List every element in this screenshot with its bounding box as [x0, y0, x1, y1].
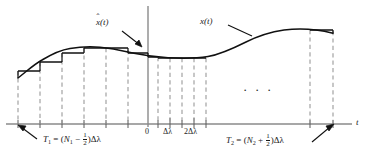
t1-fraction-denominator: 2 [83, 140, 88, 147]
approx-signal-variable: ˆ x [96, 18, 100, 27]
axis-ticks [18, 118, 333, 128]
smooth-signal-label: x(t) [200, 17, 213, 26]
tick-label-zero: 0 [145, 128, 149, 136]
staircase-approximation [18, 30, 333, 71]
t-axis-label: t [356, 118, 359, 127]
t1-fraction: 12 [83, 132, 88, 147]
t2-equals: = ( [234, 135, 247, 145]
dashed-sample-boundaries [18, 30, 333, 124]
omitted-steps-ellipsis: · · · [243, 82, 274, 98]
t2-operator: + [256, 135, 266, 145]
tick-label-delta-lambda: Δλ [163, 128, 172, 136]
t2-tail: )Δλ [271, 135, 284, 145]
x-label-leader-line [228, 25, 252, 36]
approx-signal-label: ˆ x (t) [96, 18, 109, 27]
figure-root: · · · ˆ x (t) x(t) 0 Δλ 2Δλ t T1 = (N1 −… [0, 0, 369, 157]
tick-label-two-delta-lambda: 2Δλ [184, 128, 197, 136]
t1-operator: − [73, 134, 83, 144]
t2-fraction: 12 [266, 133, 271, 148]
xhat-label-leader-arrow [122, 31, 142, 47]
t1-tail: )Δλ [88, 134, 101, 144]
t1-leader-arrow [18, 125, 37, 139]
t2-fraction-denominator: 2 [266, 141, 271, 148]
staircase-risers [18, 30, 333, 78]
hat-accent-icon: ˆ [97, 13, 100, 22]
t1-expression: T1 = (N1 − 12)Δλ [43, 132, 101, 147]
t2-expression: T2 = (N2 + 12)Δλ [226, 133, 284, 148]
t1-equals: = ( [51, 134, 64, 144]
t2-leader-arrow [312, 124, 334, 142]
